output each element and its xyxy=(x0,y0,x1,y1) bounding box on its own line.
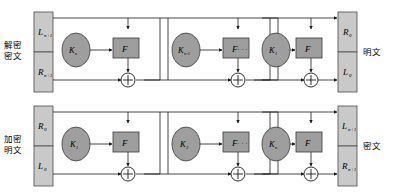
encrypt-stage-2: K 2 F xyxy=(172,127,249,181)
decrypt-stage-3-key-ellipse xyxy=(262,33,290,67)
feistel-cipher-diagram: 解密 密文 L n+1 R n+1 K n xyxy=(0,0,395,195)
decrypt-input-bottom-sub: n+1 xyxy=(44,73,52,78)
encrypt-output-register: L n+1 R n+1 xyxy=(338,106,357,186)
encrypt-row: 加密 明文 R 0 L 0 K 1 F xyxy=(4,106,381,186)
decrypt-s1-cross-up xyxy=(136,18,160,80)
encrypt-stage-1-function-label: F xyxy=(121,138,128,148)
encrypt-output-bottom-base: R xyxy=(341,161,348,171)
decrypt-input-register: L n+1 R n+1 xyxy=(34,12,53,92)
decrypt-output-label: 明文 xyxy=(363,47,381,57)
decrypt-stage-1-function-label: F xyxy=(121,44,128,54)
encrypt-stage-3: K n F xyxy=(262,127,322,181)
decrypt-stage-3-key-sub: 1 xyxy=(275,51,277,56)
decrypt-input-top-base: L xyxy=(37,27,43,37)
encrypt-input-register-top xyxy=(34,106,53,146)
encrypt-output-top-sub: n+1 xyxy=(348,127,356,132)
decrypt-input-bottom-base: R xyxy=(37,67,44,77)
decrypt-input-top-sub: n+1 xyxy=(44,33,52,38)
encrypt-stage-2-key-ellipse xyxy=(172,127,200,161)
decrypt-stage-3: K 1 F xyxy=(262,33,322,87)
encrypt-stage-1-key-ellipse xyxy=(62,127,90,161)
encrypt-stage-3-key-ellipse xyxy=(262,127,290,161)
decrypt-input-register-top xyxy=(34,12,53,52)
encrypt-s1-cross-up xyxy=(136,112,160,174)
decrypt-stage-1-key-ellipse xyxy=(62,33,90,67)
decrypt-ellipsis: ··· xyxy=(237,44,249,54)
encrypt-input-register: R 0 L 0 xyxy=(34,106,53,186)
encrypt-stage-1-key-sub: 1 xyxy=(76,145,78,150)
decrypt-side-label-line2: 密文 xyxy=(4,51,22,61)
encrypt-stage-3-function-label: F xyxy=(304,138,311,148)
decrypt-stage-2-key-ellipse xyxy=(172,33,200,67)
encrypt-input-bottom-base: L xyxy=(37,161,43,171)
encrypt-output-register-top xyxy=(338,106,357,146)
encrypt-output-top-base: L xyxy=(341,121,347,131)
decrypt-row: 解密 密文 L n+1 R n+1 K n xyxy=(4,12,381,92)
encrypt-side-label-line2: 明文 xyxy=(4,145,22,155)
encrypt-output-register-bottom xyxy=(338,146,357,186)
encrypt-stage-1: K 1 F xyxy=(62,127,139,181)
encrypt-side-label-line1: 加密 xyxy=(4,134,22,144)
diagram-canvas: 解密 密文 L n+1 R n+1 K n xyxy=(0,0,395,195)
decrypt-stage-2: K n-1 F xyxy=(172,33,249,87)
decrypt-stage-3-function-label: F xyxy=(304,44,311,54)
decrypt-output-register: R 0 L 0 xyxy=(338,12,357,92)
decrypt-stage-2-key-sub: n-1 xyxy=(184,51,190,56)
decrypt-input-register-bottom xyxy=(34,52,53,92)
encrypt-input-register-bottom xyxy=(34,146,53,186)
decrypt-output-top-base: R xyxy=(342,27,349,37)
decrypt-stage-1: K n F xyxy=(62,33,139,87)
encrypt-input-top-base: R xyxy=(37,121,44,131)
encrypt-output-bottom-sub: n+1 xyxy=(348,167,356,172)
encrypt-output-label: 密文 xyxy=(363,141,381,151)
encrypt-ellipsis: ··· xyxy=(237,138,249,148)
decrypt-side-label-line1: 解密 xyxy=(4,40,22,50)
decrypt-output-bottom-base: L xyxy=(342,67,348,77)
